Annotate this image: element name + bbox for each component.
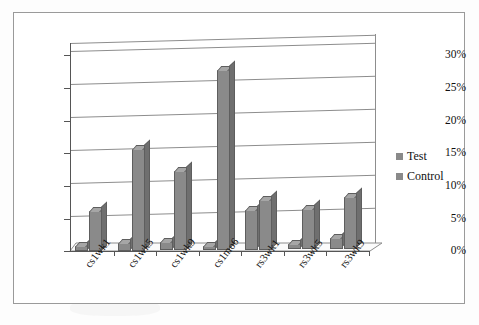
ytick-25 xyxy=(64,88,70,89)
bar-body xyxy=(160,242,173,250)
bar-rs3wk5-test[interactable] xyxy=(288,244,301,249)
bar-body xyxy=(217,70,230,250)
bar-body xyxy=(203,246,216,250)
bar-cs1wk5-control[interactable] xyxy=(132,149,145,251)
ytick-15 xyxy=(64,153,70,154)
screenshot-page: 30% 25% 20% 15% 10% 5% 0% cs1wk1cs1wk5cs… xyxy=(0,0,479,325)
chart-container: 30% 25% 20% 15% 10% 5% 0% cs1wk1cs1wk5cs… xyxy=(13,12,465,304)
plot-wall-right-edge xyxy=(375,34,376,243)
legend-label-test: Test xyxy=(407,146,427,166)
chart-legend: Test Control xyxy=(396,146,444,186)
bar-body xyxy=(330,238,343,248)
xtick-cs1wk5 xyxy=(156,251,157,256)
xtick-rs3wk9 xyxy=(369,251,370,256)
bar-rs3wk9-test[interactable] xyxy=(330,238,343,248)
xtick-rs3wk5 xyxy=(326,251,327,256)
bar-side-face xyxy=(229,60,235,249)
chart-plot-area: 30% 25% 20% 15% 10% 5% 0% cs1wk1cs1wk5cs… xyxy=(14,13,466,305)
ytick-30 xyxy=(64,55,70,56)
ytick-label-5: 5% xyxy=(420,213,466,224)
ytick-label-25: 25% xyxy=(420,82,466,93)
bar-cs1mo6-test[interactable] xyxy=(203,246,216,250)
bar-cs1wk1-test[interactable] xyxy=(75,246,88,251)
xtick-cs1mo6 xyxy=(241,251,242,256)
xtick-cs1wk1 xyxy=(114,251,115,256)
bar-side-face xyxy=(144,139,150,249)
ytick-label-0: 0% xyxy=(420,245,466,256)
legend-item-test[interactable]: Test xyxy=(396,146,444,166)
legend-label-control: Control xyxy=(407,166,444,186)
ytick-0 xyxy=(64,251,70,252)
ytick-5 xyxy=(64,219,70,220)
legend-item-control[interactable]: Control xyxy=(396,166,444,186)
bar-body xyxy=(132,149,145,251)
bar-body xyxy=(288,244,301,249)
bar-cs1wk5-test[interactable] xyxy=(118,243,131,251)
bar-rs3wk1-test[interactable] xyxy=(245,210,258,249)
ytick-label-20: 20% xyxy=(420,115,466,126)
ytick-10 xyxy=(64,186,70,187)
legend-swatch-icon xyxy=(396,173,403,180)
bar-body xyxy=(118,243,131,251)
ytick-label-30: 30% xyxy=(420,49,466,60)
gridline-30 xyxy=(70,43,376,52)
bar-cs1wk9-test[interactable] xyxy=(160,242,173,250)
xtick-cs1wk9 xyxy=(199,251,200,256)
xtick-rs3wk1 xyxy=(284,251,285,256)
legend-swatch-icon xyxy=(396,153,403,160)
value-axis xyxy=(70,43,71,251)
bar-cs1mo6-control[interactable] xyxy=(217,70,230,250)
plot-wall-top-edge xyxy=(70,35,376,44)
bar-body xyxy=(245,210,258,249)
ytick-20 xyxy=(64,121,70,122)
bar-body xyxy=(75,246,88,251)
